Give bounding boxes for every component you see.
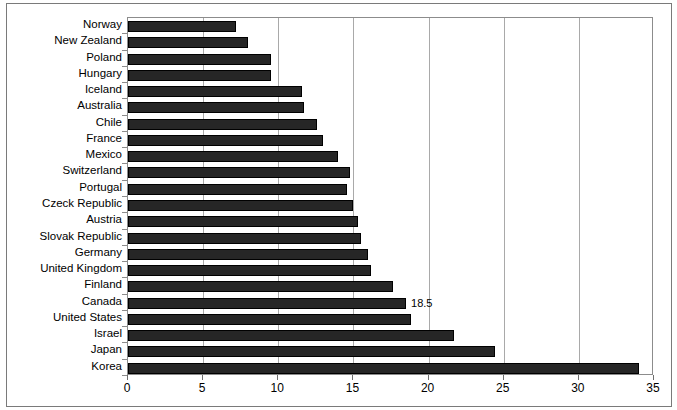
bar[interactable] xyxy=(128,281,393,292)
y-axis-tick xyxy=(122,245,127,246)
bar[interactable] xyxy=(128,86,302,97)
bar[interactable] xyxy=(128,249,368,260)
bar[interactable] xyxy=(128,346,495,357)
category-label: Switzerland xyxy=(2,164,122,177)
category-label: Germany xyxy=(2,246,122,259)
bar-value-label: 18.5 xyxy=(411,295,432,312)
y-axis-tick xyxy=(122,229,127,230)
y-axis-tick xyxy=(122,82,127,83)
bar[interactable] xyxy=(128,184,347,195)
bar[interactable] xyxy=(128,151,338,162)
bar-row xyxy=(128,360,652,377)
bar[interactable] xyxy=(128,314,411,325)
y-axis-tick xyxy=(122,147,127,148)
bar[interactable] xyxy=(128,135,323,146)
y-axis-tick xyxy=(122,310,127,311)
x-axis-tick xyxy=(277,375,278,380)
bar[interactable] xyxy=(128,233,361,244)
bar[interactable] xyxy=(128,167,350,178)
category-label: United Kingdom xyxy=(2,262,122,275)
category-label: Chile xyxy=(2,116,122,129)
category-label: Austria xyxy=(2,213,122,226)
category-label: Poland xyxy=(2,51,122,64)
bar-row xyxy=(128,99,652,116)
x-axis-tick-label: 25 xyxy=(496,381,509,395)
x-axis-tick xyxy=(578,375,579,380)
bar-row xyxy=(128,83,652,100)
bar[interactable] xyxy=(128,102,304,113)
x-axis-tick-label: 10 xyxy=(271,381,284,395)
category-label: Mexico xyxy=(2,148,122,161)
y-axis-tick xyxy=(122,131,127,132)
category-label: Australia xyxy=(2,99,122,112)
category-label: Norway xyxy=(2,18,122,31)
y-axis-tick xyxy=(122,294,127,295)
category-label: Hungary xyxy=(2,67,122,80)
bar-row xyxy=(128,51,652,68)
y-axis-tick xyxy=(122,277,127,278)
bar-row xyxy=(128,311,652,328)
bar-row xyxy=(128,18,652,35)
bar[interactable] xyxy=(128,363,639,374)
bar-row xyxy=(128,148,652,165)
bar[interactable] xyxy=(128,330,454,341)
bar-row xyxy=(128,116,652,133)
bar-row xyxy=(128,67,652,84)
category-axis-labels: NorwayNew ZealandPolandHungaryIcelandAus… xyxy=(0,17,122,375)
y-axis-tick xyxy=(122,326,127,327)
x-axis-tick xyxy=(653,375,654,380)
category-label: Israel xyxy=(2,327,122,340)
y-axis-tick xyxy=(122,342,127,343)
bar-row xyxy=(128,34,652,51)
bar-rows: 18.5 xyxy=(128,18,652,374)
bar-row xyxy=(128,327,652,344)
bar[interactable] xyxy=(128,21,236,32)
bar-row xyxy=(128,213,652,230)
bar-row xyxy=(128,246,652,263)
bar[interactable] xyxy=(128,119,317,130)
bar-row: 18.5 xyxy=(128,295,652,312)
x-axis-tick xyxy=(503,375,504,380)
bar[interactable] xyxy=(128,37,248,48)
category-label: Korea xyxy=(2,360,122,373)
bar-row xyxy=(128,132,652,149)
category-label: Iceland xyxy=(2,83,122,96)
y-axis-tick xyxy=(122,98,127,99)
x-axis-tick-label: 5 xyxy=(199,381,206,395)
x-axis-tick-label: 0 xyxy=(124,381,131,395)
category-label: New Zealand xyxy=(2,34,122,47)
y-axis-tick xyxy=(122,196,127,197)
category-label: Finland xyxy=(2,278,122,291)
plot-area: 18.5 xyxy=(127,17,653,375)
x-axis-tick xyxy=(352,375,353,380)
bar[interactable] xyxy=(128,265,371,276)
category-label: Japan xyxy=(2,343,122,356)
y-axis-tick xyxy=(122,50,127,51)
y-axis-tick xyxy=(122,359,127,360)
y-axis-tick xyxy=(122,180,127,181)
bar[interactable] xyxy=(128,54,271,65)
bar[interactable] xyxy=(128,200,353,211)
x-axis-tick xyxy=(127,375,128,380)
y-axis-tick xyxy=(122,115,127,116)
y-axis-tick xyxy=(122,261,127,262)
y-axis-tick xyxy=(122,33,127,34)
bar-row xyxy=(128,197,652,214)
bar-row xyxy=(128,343,652,360)
bar-row xyxy=(128,262,652,279)
bar[interactable] xyxy=(128,70,271,81)
category-label: Czeck Republic xyxy=(2,197,122,210)
x-axis-tick-label: 20 xyxy=(421,381,434,395)
bar[interactable] xyxy=(128,216,358,227)
x-axis-tick xyxy=(428,375,429,380)
x-axis-tick-label: 15 xyxy=(346,381,359,395)
category-label: Slovak Republic xyxy=(2,230,122,243)
bar-row xyxy=(128,181,652,198)
category-label: United States xyxy=(2,311,122,324)
bar-row xyxy=(128,164,652,181)
x-axis-tick-label: 35 xyxy=(646,381,659,395)
bar-row xyxy=(128,230,652,247)
bar[interactable] xyxy=(128,298,406,309)
x-axis-tick-label: 30 xyxy=(571,381,584,395)
y-axis-tick xyxy=(122,212,127,213)
